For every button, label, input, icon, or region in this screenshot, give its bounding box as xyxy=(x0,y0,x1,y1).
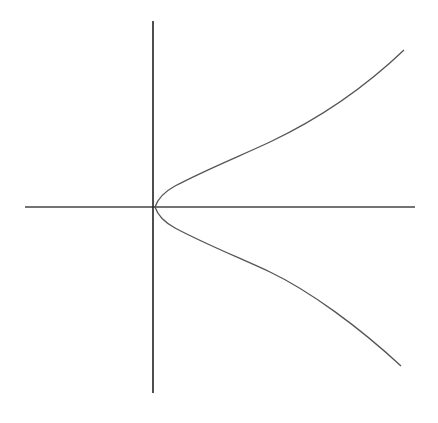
curve-lower-branch xyxy=(155,207,401,366)
curve-upper-branch xyxy=(155,50,404,207)
diagram-canvas xyxy=(0,0,438,423)
